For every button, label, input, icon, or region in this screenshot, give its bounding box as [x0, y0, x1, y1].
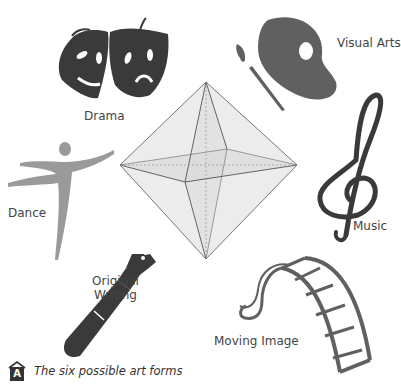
moving-image-label: Moving Image — [214, 334, 299, 348]
badge-letter: A — [10, 367, 24, 381]
figure-caption: A The six possible art forms — [8, 361, 182, 381]
art-forms-diagram — [0, 0, 401, 389]
theatre-masks-icon — [59, 18, 169, 98]
drama-label: Drama — [84, 109, 125, 123]
caption-text: The six possible art forms — [34, 364, 182, 378]
fountain-pen-icon — [64, 254, 156, 357]
music-label: Music — [353, 219, 387, 233]
palette-brush-icon — [236, 17, 336, 111]
dancer-icon — [8, 142, 114, 260]
original-writing-line2: Writing — [92, 288, 139, 302]
original-writing-line1: Original — [92, 274, 139, 288]
original-writing-label: Original Writing — [92, 274, 139, 302]
caption-badge: A — [8, 361, 26, 381]
octahedron-shape — [120, 82, 297, 259]
dance-label: Dance — [8, 206, 46, 220]
visual-arts-label: Visual Arts — [337, 36, 401, 50]
film-strip-icon — [240, 258, 370, 372]
